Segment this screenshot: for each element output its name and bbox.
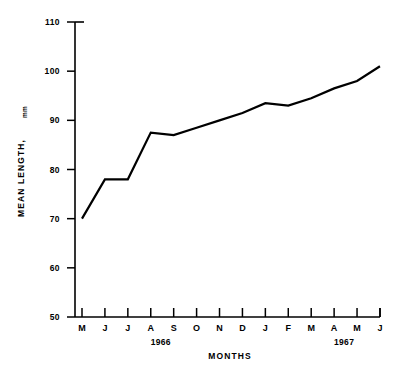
x-axis-tick-label: D — [239, 323, 246, 333]
y-axis-tick-label: 100 — [45, 66, 60, 76]
x-axis-tick-label: N — [216, 323, 223, 333]
x-axis-tick-label: J — [263, 323, 268, 333]
x-axis-tick-label: F — [286, 323, 292, 333]
y-axis-tick-label: 110 — [45, 17, 60, 27]
axes — [75, 22, 380, 317]
y-axis-tick-label: 90 — [50, 115, 60, 125]
x-axis-tick-label: M — [78, 323, 86, 333]
period-label: 1967 — [334, 337, 354, 347]
x-axis-tick-label: S — [171, 323, 177, 333]
line-chart: MEAN LENGTH, mm 1101009080706050 MJJASON… — [0, 0, 409, 375]
period-label: 1966 — [151, 337, 171, 347]
y-axis-title-unit: mm — [21, 106, 28, 118]
x-axis-tick-label: A — [331, 323, 338, 333]
period-labels: 19661967 — [151, 337, 354, 347]
x-axis-ticks: MJJASONDJFMAMJ — [78, 308, 382, 333]
x-axis-tick-label: J — [125, 323, 130, 333]
x-axis-title: MONTHS — [208, 351, 251, 361]
x-axis-tick-label: M — [307, 323, 315, 333]
x-axis-tick-label: O — [193, 323, 200, 333]
data-series-line — [82, 66, 380, 218]
y-axis-tick-label: 80 — [50, 165, 60, 175]
y-axis-tick-label: 70 — [50, 214, 60, 224]
x-axis-tick-label: M — [353, 323, 361, 333]
y-axis-title: MEAN LENGTH, mm — [16, 106, 28, 217]
chart-container: MEAN LENGTH, mm 1101009080706050 MJJASON… — [0, 0, 409, 375]
x-axis-tick-label: J — [102, 323, 107, 333]
y-axis-title-text: MEAN LENGTH, — [16, 139, 26, 217]
y-axis-tick-label: 50 — [50, 312, 60, 322]
x-axis-tick-label: J — [377, 323, 382, 333]
y-axis-tick-label: 60 — [50, 263, 60, 273]
x-axis-tick-label: A — [148, 323, 155, 333]
y-axis-ticks: 1101009080706050 — [45, 17, 75, 322]
